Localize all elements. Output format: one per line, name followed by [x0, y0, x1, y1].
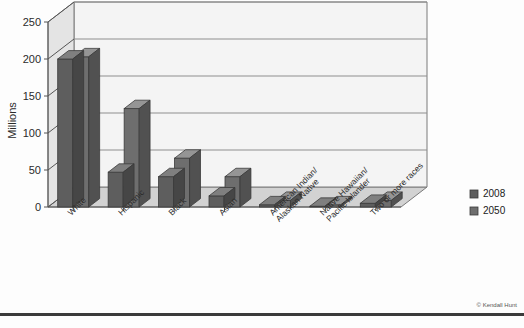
bar-front-face: [108, 172, 123, 207]
y-axis-tick-label: 250: [23, 16, 41, 28]
bar-front-face: [159, 177, 174, 207]
copyright-credit: © Kendall Hunt: [477, 302, 518, 308]
y-axis-title: Millions: [6, 102, 18, 139]
bar-front-face: [58, 59, 73, 207]
y-axis-tick-label: 0: [35, 201, 41, 213]
y-axis-tick-label: 150: [23, 90, 41, 102]
legend-item: 2050: [470, 205, 506, 216]
y-axis-tick-label: 50: [29, 164, 41, 176]
bar-side-face: [89, 48, 100, 207]
y-axis-tick-label: 200: [23, 53, 41, 65]
bar-side-face: [73, 51, 84, 207]
bar-2008: [58, 51, 84, 207]
legend-item: 2008: [470, 188, 506, 199]
legend-swatch: [470, 207, 478, 215]
bar-chart-canvas: 050100150200250MillionsWhiteHispanicBlac…: [0, 0, 524, 328]
chart-figure: 050100150200250MillionsWhiteHispanicBlac…: [0, 0, 524, 328]
legend-label: 2050: [483, 205, 506, 216]
y-axis-tick-label: 100: [23, 127, 41, 139]
footer-divider-rule: [0, 313, 524, 316]
bar-side-face: [190, 150, 201, 207]
legend-swatch: [470, 190, 478, 198]
legend-label: 2008: [483, 188, 506, 199]
